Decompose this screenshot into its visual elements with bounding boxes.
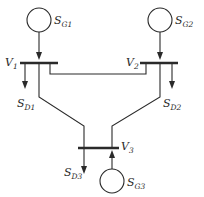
load-d2-label: SD2 bbox=[163, 97, 182, 112]
load-d1-label: SD1 bbox=[17, 97, 35, 112]
bus-3-label: V3 bbox=[121, 140, 134, 155]
generator-g3-label: SG3 bbox=[127, 176, 146, 191]
generator-g1-symbol bbox=[27, 8, 51, 32]
generator-g3-arrow-icon bbox=[109, 150, 115, 158]
load-d3-label: SD3 bbox=[64, 166, 83, 181]
line-bus2-bus3 bbox=[112, 63, 160, 148]
line-bus1-bus3 bbox=[39, 63, 84, 148]
bus-2-label: V2 bbox=[126, 56, 139, 71]
power-system-diagram: SG1 SG2 SG3 SD1 SD2 SD3 V1 V2 V3 bbox=[0, 0, 204, 197]
generator-g1-arrow-icon bbox=[36, 52, 42, 60]
generator-g1-label: SG1 bbox=[54, 14, 72, 29]
load-d2-arrow-icon bbox=[169, 81, 175, 89]
generator-g3-symbol bbox=[100, 169, 124, 193]
generator-g2-label: SG2 bbox=[175, 14, 194, 29]
load-d1-arrow-icon bbox=[22, 81, 28, 89]
generator-g2-symbol bbox=[148, 8, 172, 32]
bus-1-label: V1 bbox=[5, 56, 18, 71]
generator-g2-arrow-icon bbox=[157, 52, 163, 60]
